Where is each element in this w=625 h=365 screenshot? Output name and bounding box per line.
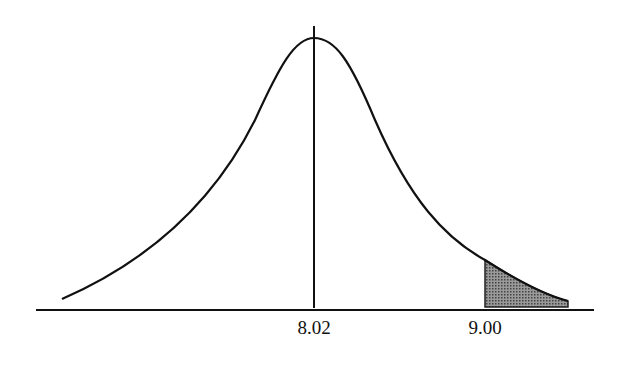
normal-curve-chart: 8.02 9.00 [0,0,625,365]
cutoff-label: 9.00 [468,317,501,338]
mean-label: 8.02 [297,317,330,338]
